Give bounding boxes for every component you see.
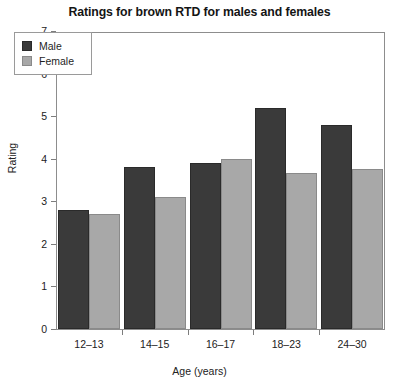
- y-tick-label: 2: [41, 237, 47, 251]
- x-tick-label: 14–15: [122, 338, 188, 350]
- bar-female-12-13: [89, 214, 120, 329]
- x-tick-label: 18–23: [253, 338, 319, 350]
- y-axis-label: Rating: [6, 128, 18, 188]
- legend-swatch-icon: [22, 41, 32, 51]
- chart-title: Ratings for brown RTD for males and fema…: [0, 5, 399, 19]
- x-tick-label: 24–30: [319, 338, 385, 350]
- plot-area: [56, 32, 385, 330]
- y-tick-label: 5: [41, 109, 47, 123]
- y-tick-label: 1: [41, 279, 47, 293]
- legend-swatch-icon: [22, 56, 32, 66]
- x-axis-label: Age (years): [0, 365, 399, 377]
- bar-male-24-30: [321, 125, 352, 329]
- bar-male-14-15: [124, 167, 155, 329]
- chart-legend: MaleFemale: [14, 32, 92, 75]
- bar-male-12-13: [58, 210, 89, 329]
- legend-label: Female: [39, 55, 74, 67]
- x-tick-line: [122, 330, 123, 335]
- y-tick-label: 3: [41, 194, 47, 208]
- y-tick-label: 4: [41, 152, 47, 166]
- bar-female-24-30: [352, 169, 383, 329]
- legend-item-male: Male: [22, 38, 85, 53]
- bar-male-18-23: [255, 108, 286, 329]
- legend-item-female: Female: [22, 53, 85, 68]
- bar-female-16-17: [221, 159, 252, 329]
- bar-female-14-15: [155, 197, 186, 329]
- x-tick-line: [253, 330, 254, 335]
- bar-male-16-17: [190, 163, 221, 329]
- chart-figure: Ratings for brown RTD for males and fema…: [0, 0, 399, 387]
- x-tick-line: [319, 330, 320, 335]
- x-tick-label: 12–13: [56, 338, 122, 350]
- legend-label: Male: [39, 40, 62, 52]
- bar-female-18-23: [286, 173, 317, 329]
- x-tick-line: [188, 330, 189, 335]
- x-tick-label: 16–17: [188, 338, 254, 350]
- y-tick-label: 0: [41, 322, 47, 336]
